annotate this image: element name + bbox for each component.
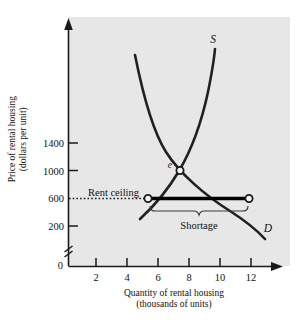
x-tick-label-6: 6 bbox=[155, 272, 160, 283]
supply-demand-chart: 1400 1000 600 200 0 2 4 6 8 10 12 S D e … bbox=[0, 0, 298, 328]
origin-label: 0 bbox=[58, 260, 63, 271]
x-tick-label-12: 12 bbox=[246, 272, 257, 283]
quantity-supplied-marker bbox=[144, 195, 151, 202]
rent-ceiling-label: Rent ceiling bbox=[88, 187, 140, 198]
y-axis-title-line2: (dollars per unit) bbox=[18, 59, 29, 219]
y-tick-label-600: 600 bbox=[48, 193, 64, 204]
x-tick-label-4: 4 bbox=[124, 272, 130, 283]
supply-curve-label: S bbox=[210, 33, 216, 45]
quantity-demanded-marker bbox=[245, 195, 252, 202]
y-tick-label-200: 200 bbox=[48, 221, 64, 232]
x-tick-label-10: 10 bbox=[215, 272, 226, 283]
demand-curve-label: D bbox=[263, 222, 273, 234]
y-tick-label-1400: 1400 bbox=[43, 138, 64, 149]
y-axis-title: Price of rental housing (dollars per uni… bbox=[7, 59, 29, 219]
x-tick-label-8: 8 bbox=[186, 272, 191, 283]
plot-panel bbox=[68, 17, 290, 266]
y-axis-title-line1: Price of rental housing bbox=[7, 59, 18, 219]
y-tick-label-1000: 1000 bbox=[43, 166, 64, 177]
rent-ceiling-figure: 1400 1000 600 200 0 2 4 6 8 10 12 S D e … bbox=[0, 0, 298, 328]
x-axis-title-line1: Quantity of rental housing bbox=[60, 288, 288, 299]
x-axis-title: Quantity of rental housing (thousands of… bbox=[60, 288, 288, 310]
x-axis-title-line2: (thousands of units) bbox=[60, 299, 288, 310]
x-tick-label-2: 2 bbox=[93, 272, 98, 283]
equilibrium-label: e bbox=[168, 160, 172, 170]
shortage-label: Shortage bbox=[180, 220, 218, 231]
equilibrium-marker bbox=[176, 167, 183, 174]
